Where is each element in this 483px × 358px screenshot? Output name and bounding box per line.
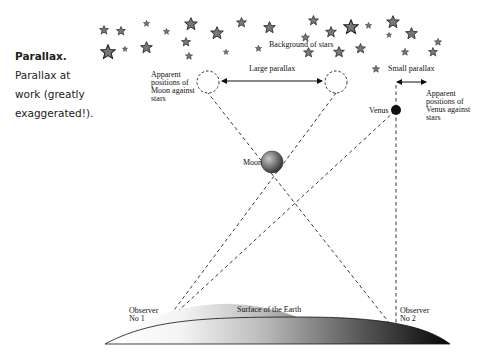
moon-position-1: [197, 71, 219, 93]
observer2-label-1: No 2: [400, 314, 416, 323]
surface-label: Surface of the Earth: [237, 305, 301, 314]
moon-position-2: [325, 71, 347, 93]
venus-icon: [391, 105, 401, 115]
venus-positions-label-3: stars: [426, 113, 441, 122]
parallax-diagram: Background of stars Large parallax Appar…: [0, 0, 483, 358]
large-parallax-label: Large parallax: [249, 64, 295, 73]
observer1-label-1: No 1: [129, 314, 145, 323]
venus-label: Venus: [369, 106, 389, 115]
background-stars-label: Background of stars: [269, 40, 333, 49]
moon-positions-label-3: stars: [151, 94, 166, 103]
moon-label: Moon: [243, 158, 262, 167]
small-parallax-label: Small parallax: [388, 64, 434, 73]
sight-lines: [163, 85, 396, 329]
moon-icon: [261, 151, 283, 173]
